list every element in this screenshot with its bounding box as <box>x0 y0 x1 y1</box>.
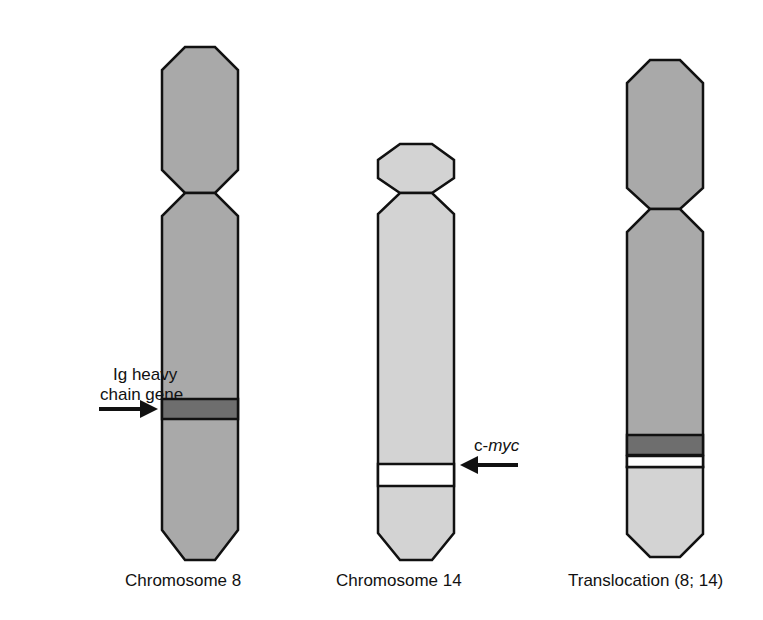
c-myc-band <box>378 464 454 486</box>
myc-arrow <box>460 456 518 474</box>
translocation-label: Translocation (8; 14) <box>568 571 723 591</box>
chromosome-diagram <box>0 0 763 620</box>
chr14-short-arm <box>378 144 454 193</box>
c-myc-gene-name: myc <box>488 436 519 455</box>
translocation-long-arm-chr8-part <box>627 209 703 467</box>
chromosome-8-label: Chromosome 8 <box>125 571 241 591</box>
translocation-myc-band <box>627 456 703 467</box>
chromosome-14 <box>378 144 454 560</box>
translocation-chromosome <box>627 60 703 557</box>
translocation-short-arm <box>627 60 703 209</box>
chromosome-8 <box>162 47 238 560</box>
arrowhead-left-icon <box>460 456 478 474</box>
c-myc-label: c-myc <box>474 436 519 456</box>
ig-label-line1: Ig heavy <box>113 365 183 385</box>
ig-heavy-chain-label: Ig heavy chain gene <box>113 365 183 405</box>
translocation-ig-band <box>627 435 703 455</box>
translocation-long-arm-chr14-part <box>627 467 703 557</box>
chr8-short-arm <box>162 47 238 193</box>
c-myc-prefix: c- <box>474 436 488 455</box>
chr14-long-arm <box>378 193 454 560</box>
ig-label-line2: chain gene <box>100 385 183 405</box>
chromosome-14-label: Chromosome 14 <box>336 571 462 591</box>
